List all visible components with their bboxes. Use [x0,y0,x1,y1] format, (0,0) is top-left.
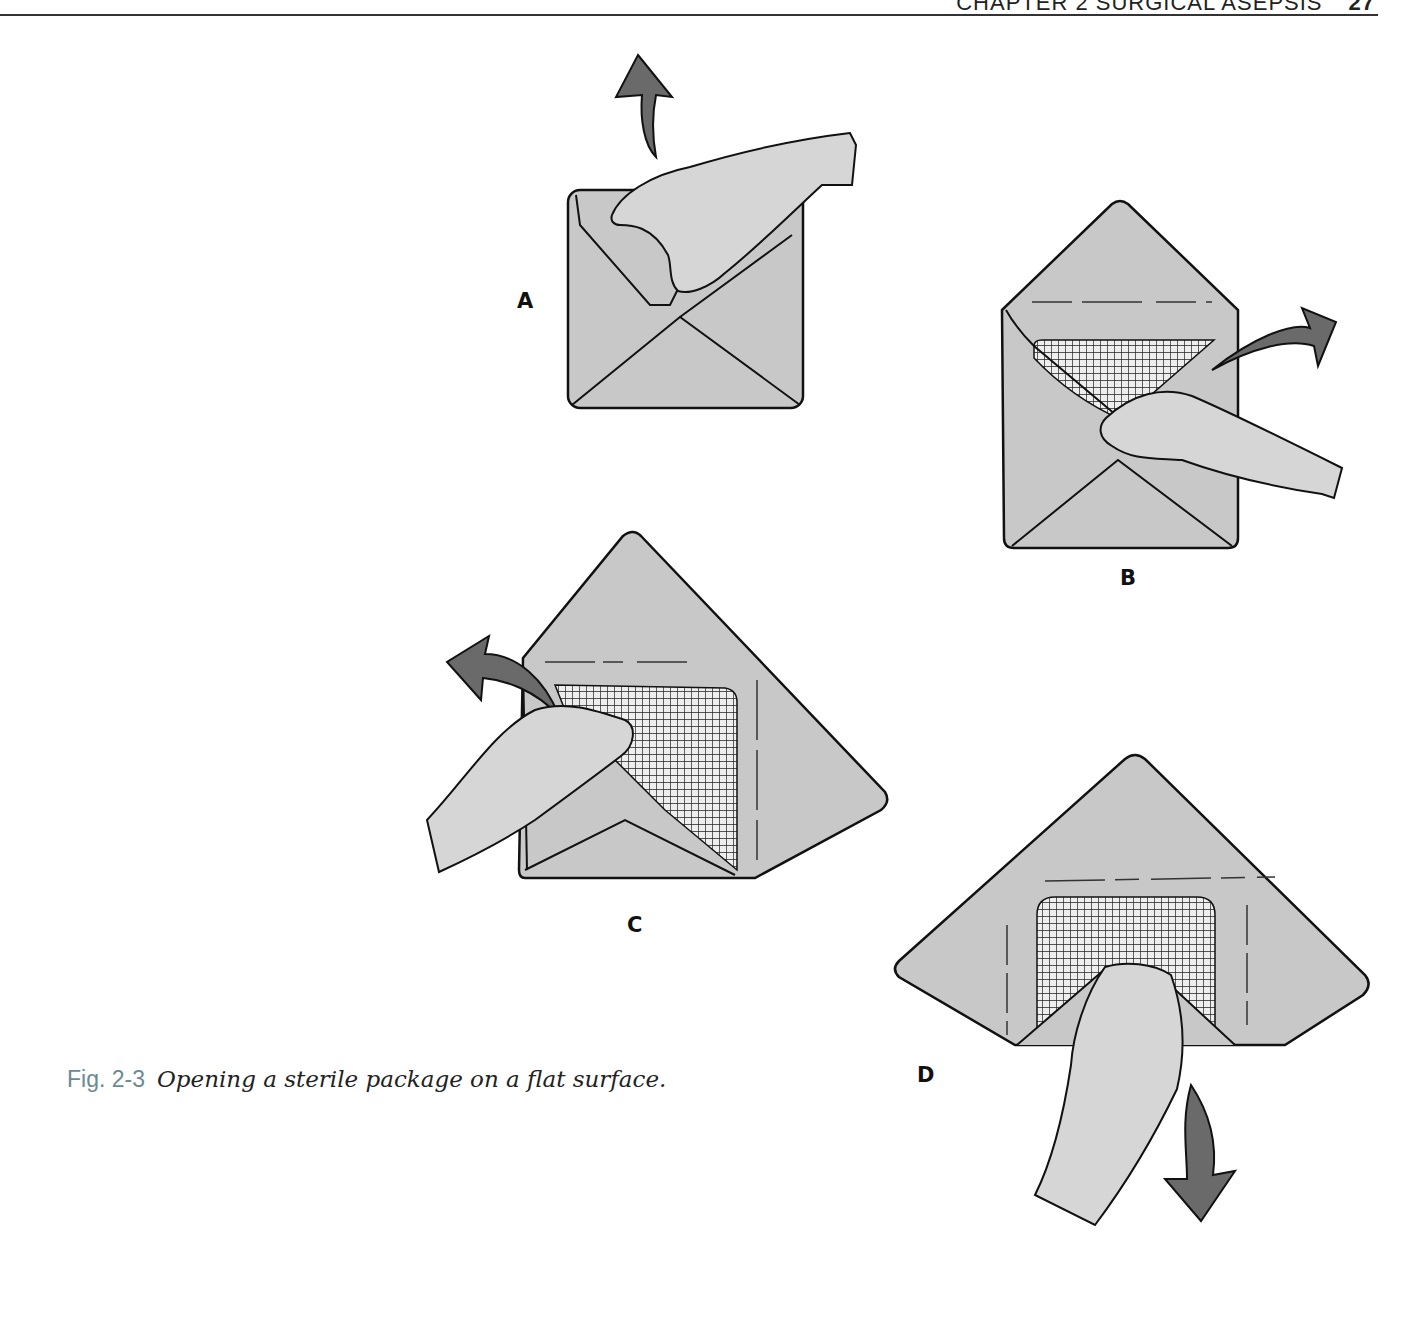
panel-label-b: B [1120,566,1136,590]
figure-caption: Fig. 2-3Opening a sterile package on a f… [67,1066,666,1093]
header-rule [0,14,1378,16]
panel-a-illustration [560,55,860,415]
panel-b-illustration [1002,198,1342,553]
figure-caption-text: Opening a sterile package on a flat surf… [157,1066,666,1092]
panel-d-illustration [895,755,1375,1225]
panel-c-illustration [425,530,895,885]
panel-label-d: D [917,1063,934,1087]
down-arrow-icon [1165,1085,1235,1221]
page-number: 27 [1349,0,1375,15]
chapter-title: CHAPTER 2 SURGICAL ASEPSIS [956,0,1322,15]
up-arrow-icon [616,55,672,157]
figure-number: Fig. 2-3 [67,1066,145,1092]
panel-label-a: A [517,289,533,313]
panel-label-c: C [627,913,642,937]
